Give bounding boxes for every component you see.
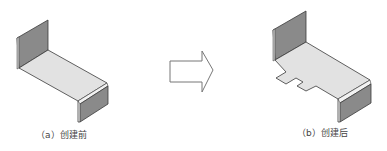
arrow-right-icon xyxy=(170,51,213,92)
part-before xyxy=(17,20,108,122)
caption-before: （a）创建前 xyxy=(36,128,87,141)
caption-after: （b）创建后 xyxy=(297,126,348,139)
part-after xyxy=(273,11,371,122)
